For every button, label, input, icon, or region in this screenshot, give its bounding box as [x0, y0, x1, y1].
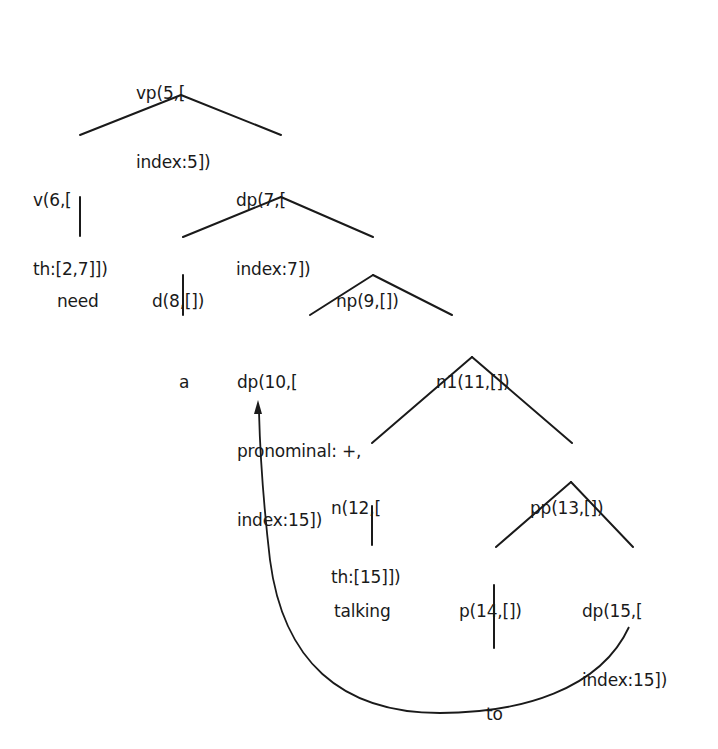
node-dp7: dp(7,[ index:7]) — [236, 143, 311, 304]
leaf-talking: talking — [334, 554, 391, 646]
node-dp15: dp(15,[ index:15]) — [582, 554, 667, 715]
node-np9: np(9,[]) — [336, 244, 399, 336]
node-vp5: vp(5,[ index:5]) — [136, 36, 211, 197]
leaf-need: need — [57, 244, 99, 336]
node-d8: d(8,[]) — [152, 244, 204, 336]
node-p14: p(14,[]) — [459, 554, 522, 646]
leaf-a: a — [179, 325, 189, 417]
node-n1-11: n1(11,[]) — [436, 325, 509, 417]
leaf-to: to — [486, 657, 503, 749]
node-pp13: pp(13,[]) — [530, 451, 603, 543]
